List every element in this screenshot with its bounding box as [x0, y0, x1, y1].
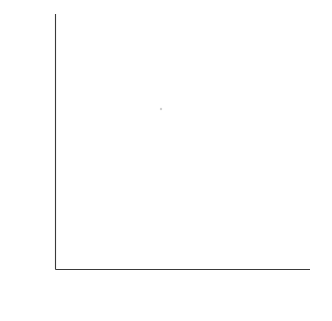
scan-speck: [160, 108, 162, 110]
chart-figure: [0, 0, 332, 321]
chart-canvas: [0, 0, 332, 321]
axis-group: [56, 14, 311, 270]
